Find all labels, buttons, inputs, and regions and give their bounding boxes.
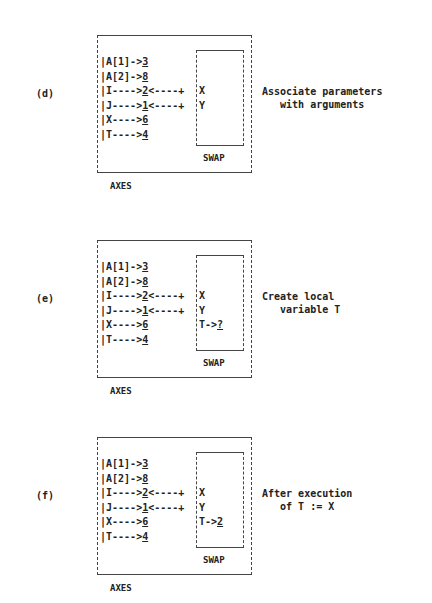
step-description: After execution of T := X: [262, 487, 352, 513]
swap-row: X: [199, 289, 223, 304]
axes-row: |A[1]->3: [100, 457, 184, 472]
swap-name: SWAP: [203, 358, 225, 368]
swap-row: [199, 128, 205, 143]
swap-row: [199, 260, 223, 275]
axes-row: |T---->4: [100, 128, 184, 143]
swap-row: [199, 530, 223, 545]
swap-name: SWAP: [203, 153, 225, 163]
axes-row: |I---->2<----+: [100, 84, 184, 99]
axes-name: AXES: [110, 583, 132, 593]
swap-row: [199, 113, 205, 128]
axes-name: AXES: [110, 386, 132, 396]
swap-variables: XYT->2: [199, 457, 223, 544]
axes-row: |I---->2<----+: [100, 289, 184, 304]
axes-row: |A[2]->8: [100, 70, 184, 85]
axes-variables: |A[1]->3|A[2]->8|I---->2<----+|J---->1<-…: [100, 457, 184, 544]
swap-row: Y: [199, 304, 223, 319]
axes-row: |X---->6: [100, 318, 184, 333]
axes-row: |X---->6: [100, 515, 184, 530]
axes-row: |T---->4: [100, 333, 184, 348]
swap-row: [199, 275, 223, 290]
swap-variables: XY: [199, 55, 205, 142]
swap-row: [199, 70, 205, 85]
axes-row: |J---->1<----+: [100, 304, 184, 319]
panel-label: (d): [36, 88, 54, 99]
swap-row: [199, 457, 223, 472]
swap-row: [199, 333, 223, 348]
swap-local-row: T->?: [199, 318, 223, 333]
axes-variables: |A[1]->3|A[2]->8|I---->2<----+|J---->1<-…: [100, 55, 184, 142]
axes-row: |A[2]->8: [100, 472, 184, 487]
axes-variables: |A[1]->3|A[2]->8|I---->2<----+|J---->1<-…: [100, 260, 184, 347]
axes-row: |A[1]->3: [100, 55, 184, 70]
swap-row: [199, 55, 205, 70]
panel-label: (f): [36, 490, 54, 501]
axes-row: |T---->4: [100, 530, 184, 545]
swap-variables: XYT->?: [199, 260, 223, 347]
swap-local-row: T->2: [199, 515, 223, 530]
axes-name: AXES: [110, 181, 132, 191]
axes-row: |I---->2<----+: [100, 486, 184, 501]
axes-row: |A[1]->3: [100, 260, 184, 275]
swap-row: Y: [199, 99, 205, 114]
axes-row: |J---->1<----+: [100, 501, 184, 516]
step-description: Associate parameters with arguments: [262, 85, 382, 111]
step-description: Create local variable T: [262, 290, 340, 316]
swap-row: X: [199, 84, 205, 99]
axes-row: |X---->6: [100, 113, 184, 128]
swap-row: Y: [199, 501, 223, 516]
swap-row: [199, 472, 223, 487]
swap-row: X: [199, 486, 223, 501]
axes-row: |J---->1<----+: [100, 99, 184, 114]
swap-name: SWAP: [203, 555, 225, 565]
panel-label: (e): [36, 293, 54, 304]
axes-row: |A[2]->8: [100, 275, 184, 290]
